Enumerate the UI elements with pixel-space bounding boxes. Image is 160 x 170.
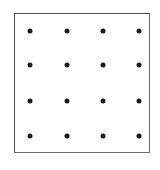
grid-dot <box>137 29 142 34</box>
grid-dot <box>65 63 70 68</box>
grid-dot <box>65 134 70 139</box>
grid-dot <box>101 134 106 139</box>
grid-dot <box>65 99 70 104</box>
grid-dot <box>101 99 106 104</box>
grid-dot <box>28 99 33 104</box>
square-border <box>14 13 150 153</box>
grid-dot <box>28 29 33 34</box>
grid-dot <box>137 134 142 139</box>
grid-dot <box>65 29 70 34</box>
grid-dot <box>28 63 33 68</box>
grid-dot <box>137 63 142 68</box>
figure-root <box>0 0 160 170</box>
grid-dot <box>137 99 142 104</box>
grid-dot <box>101 29 106 34</box>
grid-dot <box>101 63 106 68</box>
grid-dot <box>28 134 33 139</box>
